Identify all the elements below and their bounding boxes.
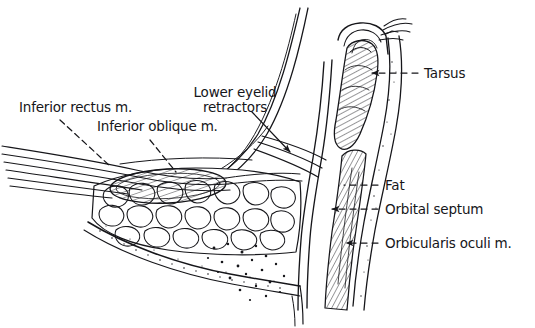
anatomical-figure: Inferior rectus m. Inferior oblique m. L…: [0, 0, 535, 328]
label-orbital-septum: Orbital septum: [385, 202, 483, 217]
label-lower-eyelid-retractors-line2: retractors: [176, 100, 294, 115]
label-tarsus: Tarsus: [424, 66, 465, 81]
orbicularis-oculi-muscle: [325, 150, 366, 310]
eyelashes: [379, 19, 412, 40]
label-lower-eyelid-retractors-line1: Lower eyelid: [193, 84, 276, 100]
label-lower-eyelid-retractors: Lower eyelid retractors: [176, 85, 294, 114]
label-fat: Fat: [385, 178, 405, 193]
label-orbicularis-oculi: Orbicularis oculi m.: [385, 236, 512, 251]
label-inferior-oblique: Inferior oblique m.: [97, 119, 218, 134]
leader-line-inferior-oblique: [150, 140, 176, 172]
tarsal-plate: [334, 41, 378, 150]
label-inferior-rectus: Inferior rectus m.: [19, 100, 132, 115]
anatomy-illustration: [0, 0, 535, 328]
